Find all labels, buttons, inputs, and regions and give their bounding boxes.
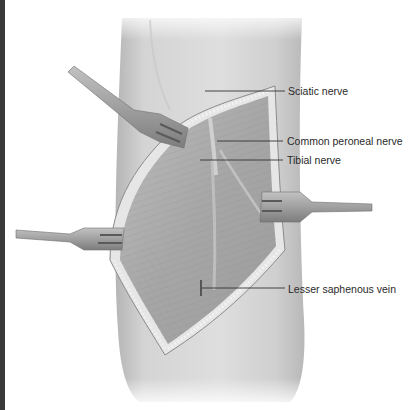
- retractor-right: [260, 192, 372, 222]
- label-tibial-nerve: Tibial nerve: [287, 154, 341, 166]
- retractor-lower-left: [16, 228, 124, 250]
- label-sciatic-nerve: Sciatic nerve: [288, 85, 348, 97]
- label-lesser-saphenous-vein: Lesser saphenous vein: [288, 283, 396, 295]
- popliteal-illustration: [0, 0, 415, 410]
- label-common-peroneal-nerve: Common peroneal nerve: [287, 135, 403, 147]
